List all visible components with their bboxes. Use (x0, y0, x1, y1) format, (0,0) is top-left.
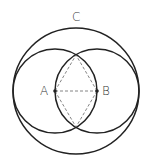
segment-a-top (55, 55, 76, 91)
label-b: B (102, 84, 110, 98)
point-b (95, 89, 99, 93)
diagram-canvas: A B C (0, 0, 147, 168)
label-a: A (40, 84, 48, 98)
geometry-figure: A B C (0, 0, 147, 168)
segment-b-bottom (76, 91, 97, 127)
point-a (53, 89, 57, 93)
segment-b-top (76, 55, 97, 91)
segment-a-bottom (55, 91, 76, 127)
label-c: C (72, 10, 80, 24)
